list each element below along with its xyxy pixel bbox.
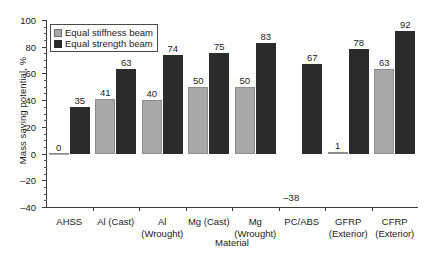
legend-swatch-stiffness (54, 29, 62, 37)
y-tick-label: 60 (25, 68, 36, 79)
y-tick-label: –40 (20, 202, 36, 213)
x-axis-title: Material (46, 237, 418, 248)
y-tick-label: 80 (25, 41, 36, 52)
legend-swatch-strength (54, 40, 62, 48)
y-axis-title: Mass saving potential, % (17, 31, 28, 191)
y-tick-label: 0 (31, 148, 36, 159)
y-tick-label: –20 (20, 175, 36, 186)
legend-item-equal-strength-beam: Equal strength beam (54, 38, 153, 49)
bar-equal-stiffness (374, 69, 394, 153)
y-tick-label: 20 (25, 121, 36, 132)
chart-legend: Equal stiffness beam Equal strength beam (50, 24, 158, 52)
x-tick-mark (372, 208, 373, 211)
category-label: CFRP(Exterior) (359, 216, 431, 239)
bar-chart-figure: Mass saving potential, % –40–20020406080… (0, 0, 431, 258)
legend-item-equal-stiffness-beam: Equal stiffness beam (54, 27, 153, 38)
y-tick-label: 100 (20, 15, 36, 26)
x-tick-mark (279, 208, 280, 211)
x-tick-mark (186, 208, 187, 211)
category-label-line: CFRP (359, 216, 431, 228)
x-tick-mark (139, 208, 140, 211)
x-tick-mark (93, 208, 94, 211)
y-tick-mark (42, 207, 47, 208)
y-tick-label: 40 (25, 95, 36, 106)
legend-label-strength: Equal strength beam (65, 38, 153, 49)
legend-label-stiffness: Equal stiffness beam (65, 27, 153, 38)
x-tick-mark (325, 208, 326, 211)
x-tick-mark (232, 208, 233, 211)
bar-value-label: 92 (388, 19, 422, 30)
bar-equal-strength (395, 31, 415, 154)
